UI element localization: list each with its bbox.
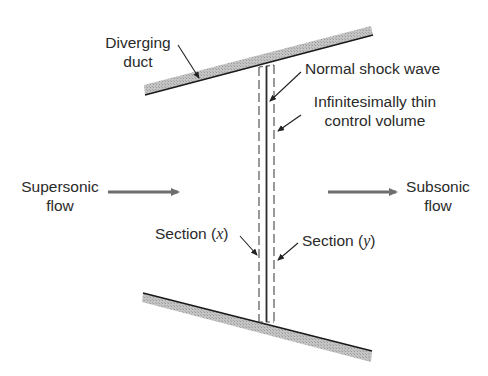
subsonic-label-line2: flow bbox=[402, 196, 474, 215]
subsonic-flow-label: Subsonic flow bbox=[402, 177, 474, 215]
section-x-suffix: ) bbox=[223, 225, 228, 242]
bottom-duct-wall bbox=[142, 293, 372, 362]
normal-shock-leader-icon bbox=[270, 72, 301, 101]
supersonic-flow-label: Supersonic flow bbox=[15, 177, 105, 215]
supersonic-label-line1: Supersonic bbox=[15, 177, 105, 196]
diverging-duct-label-line2: duct bbox=[98, 52, 178, 71]
section-y-suffix: ) bbox=[370, 232, 375, 249]
diverging-duct-leader-icon bbox=[178, 45, 199, 78]
section-x-prefix: Section ( bbox=[155, 225, 216, 242]
section-y-label: Section (y) bbox=[302, 231, 375, 250]
control-volume-leader-icon bbox=[278, 115, 301, 131]
diverging-duct-label: Diverging duct bbox=[98, 33, 178, 71]
control-volume-label: Infinitesimally thin control volume bbox=[300, 92, 450, 130]
section-x-leader-icon bbox=[240, 236, 257, 255]
diverging-duct-label-line1: Diverging bbox=[98, 33, 178, 52]
normal-shock-label-text: Normal shock wave bbox=[305, 60, 440, 77]
subsonic-label-line1: Subsonic bbox=[402, 177, 474, 196]
section-x-label: Section (x) bbox=[155, 224, 228, 243]
section-y-leader-icon bbox=[278, 243, 298, 260]
control-volume-label-line2: control volume bbox=[300, 111, 450, 130]
normal-shock-label: Normal shock wave bbox=[305, 59, 440, 78]
control-volume-label-line1: Infinitesimally thin bbox=[300, 92, 450, 111]
supersonic-label-line2: flow bbox=[15, 196, 105, 215]
section-y-prefix: Section ( bbox=[302, 232, 363, 249]
